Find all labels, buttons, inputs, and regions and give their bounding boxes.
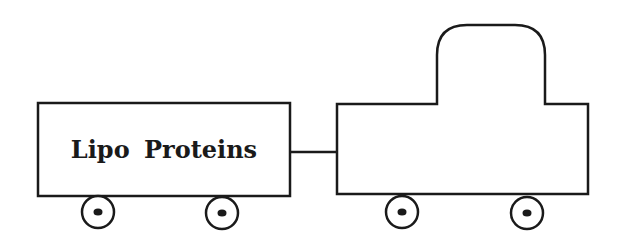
train-diagram: Lipo Proteins: [0, 0, 624, 251]
wagon: Lipo Proteins: [38, 103, 290, 229]
engine-wheel-front: [386, 196, 418, 228]
engine: [337, 25, 588, 229]
wagon-wheel-rear: [206, 197, 238, 229]
wagon-wheel-front: [82, 196, 114, 228]
engine-body: [337, 25, 588, 194]
engine-wheel-rear: [511, 197, 543, 229]
wagon-label: Lipo Proteins: [71, 135, 257, 164]
